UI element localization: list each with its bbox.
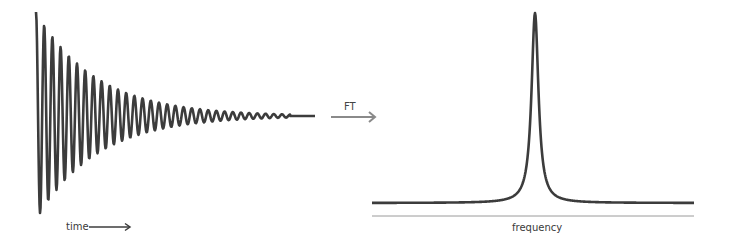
frequency-axis-label: frequency bbox=[512, 222, 562, 233]
time-arrow bbox=[89, 224, 130, 231]
ft-arrow bbox=[331, 112, 375, 122]
fid-to-spectrum-diagram bbox=[0, 0, 729, 247]
spectrum-lorentzian-peak bbox=[372, 13, 694, 203]
fourier-transform-label: FT bbox=[344, 101, 356, 112]
fid-signal-waveform bbox=[36, 12, 315, 213]
time-axis-label: time bbox=[66, 221, 89, 232]
